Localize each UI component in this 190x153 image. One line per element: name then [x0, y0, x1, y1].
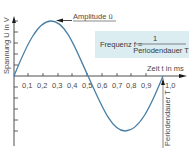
- formula-numerator: 1: [153, 34, 157, 43]
- x-axis-arrow-icon: [179, 74, 187, 78]
- svg-text:0,2: 0,2: [37, 81, 47, 90]
- svg-text:0,1: 0,1: [22, 81, 32, 90]
- y-axis-arrow-icon: [12, 16, 16, 23]
- x-axis-label: Zeit t in ms: [147, 64, 184, 73]
- formula-denominator: Periodendauer T: [133, 46, 189, 55]
- svg-text:0,3: 0,3: [52, 81, 62, 90]
- svg-text:0,4: 0,4: [67, 81, 77, 90]
- sine-wave-diagram: 0,1 0,2 0,3 0,4 0,5 0,6 0,7 0,8 0,9 1,0 …: [0, 0, 190, 153]
- svg-text:1,0: 1,0: [165, 81, 175, 90]
- amplitude-label: Amplitude û: [73, 12, 113, 21]
- svg-text:0,8: 0,8: [126, 81, 136, 90]
- svg-text:0,7: 0,7: [112, 81, 122, 90]
- svg-text:0,9: 0,9: [141, 81, 151, 90]
- svg-text:0,6: 0,6: [97, 81, 107, 90]
- period-label: Periodendauer T: [163, 90, 172, 146]
- y-axis-label: Spannung U in V: [2, 17, 11, 74]
- x-tick-labels: 0,1 0,2 0,3 0,4 0,5 0,6 0,7 0,8 0,9 1,0: [22, 81, 175, 90]
- amplitude-arrow-icon: [56, 19, 63, 23]
